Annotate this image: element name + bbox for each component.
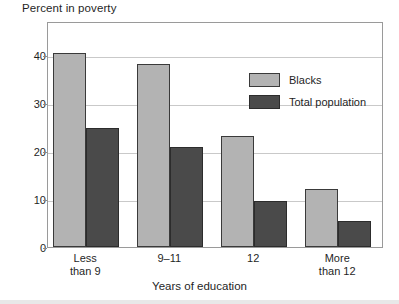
x-axis-title: Years of education bbox=[0, 280, 399, 292]
plot-area bbox=[48, 23, 382, 247]
legend-label: Total population bbox=[289, 96, 366, 108]
bar bbox=[221, 136, 254, 247]
legend-label: Blacks bbox=[289, 74, 321, 86]
x-axis-tick-label: 12 bbox=[208, 252, 298, 265]
poverty-education-bar-chart: Percent in poverty 010203040 Less than 9… bbox=[0, 0, 399, 304]
plot-frame bbox=[47, 22, 383, 248]
bar bbox=[305, 189, 338, 247]
gridline bbox=[48, 57, 382, 58]
legend-swatch bbox=[249, 73, 280, 87]
x-axis-tick-label: 9–11 bbox=[124, 252, 214, 265]
page-edge-shadow bbox=[0, 300, 399, 304]
chart-title: Percent in poverty bbox=[22, 2, 117, 14]
x-axis-tick-label: More than 12 bbox=[292, 252, 382, 278]
legend-swatch bbox=[249, 95, 280, 109]
bar bbox=[170, 147, 203, 247]
bar bbox=[338, 221, 371, 247]
bar bbox=[137, 64, 170, 247]
bar bbox=[53, 53, 86, 247]
x-axis-tick-label: Less than 9 bbox=[40, 252, 130, 278]
bar bbox=[254, 201, 287, 247]
legend-item: Total population bbox=[249, 93, 379, 110]
legend-item: Blacks bbox=[249, 71, 379, 88]
y-axis-tick-mark bbox=[43, 248, 47, 249]
bar bbox=[86, 128, 119, 247]
chart-legend: BlacksTotal population bbox=[249, 71, 379, 115]
